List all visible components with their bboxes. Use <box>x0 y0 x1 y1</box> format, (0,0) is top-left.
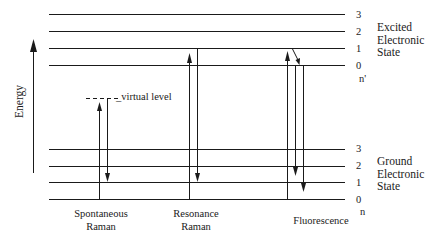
arrow-down-icon <box>293 167 298 176</box>
excited-level-0-label: 0 <box>356 60 361 71</box>
ground-level-0-label: 0 <box>356 194 361 205</box>
energy-axis-label: Energy <box>13 85 25 118</box>
arrow-up-icon <box>285 51 290 61</box>
ground-state-label: Ground Electronic State <box>377 155 424 193</box>
excited-quantum-label: n' <box>359 73 366 84</box>
excited-level-1-label: 1 <box>356 43 361 54</box>
relaxation-arrow <box>292 48 298 60</box>
arrow-up-icon <box>97 102 102 111</box>
fluorescence-caption: Fluorescence <box>286 214 356 227</box>
arrow-down-icon <box>195 173 200 182</box>
arrow-down-icon <box>301 183 306 192</box>
resonance-raman-caption: Resonance Raman <box>168 207 224 233</box>
spontaneous-raman-caption: Spontaneous Raman <box>66 207 136 233</box>
virtual-level-label: _virtual level <box>116 91 172 103</box>
excited-state-label: Excited Electronic State <box>377 21 424 59</box>
energy-level-diagram: Energy _virtual level 3 2 1 0 n' Excited… <box>0 0 448 241</box>
ground-level-3-label: 3 <box>356 143 361 154</box>
energy-arrow-head-icon <box>30 39 37 52</box>
excited-level-3-label: 3 <box>356 9 361 20</box>
arrow-down-icon <box>105 173 110 182</box>
arrow-diagonal-icon <box>296 58 301 65</box>
ground-quantum-label: n <box>360 206 365 217</box>
excited-level-2-label: 2 <box>356 26 361 37</box>
ground-level-1-label: 1 <box>356 177 361 188</box>
ground-level-2-label: 2 <box>356 160 361 171</box>
arrow-up-icon <box>187 53 192 63</box>
